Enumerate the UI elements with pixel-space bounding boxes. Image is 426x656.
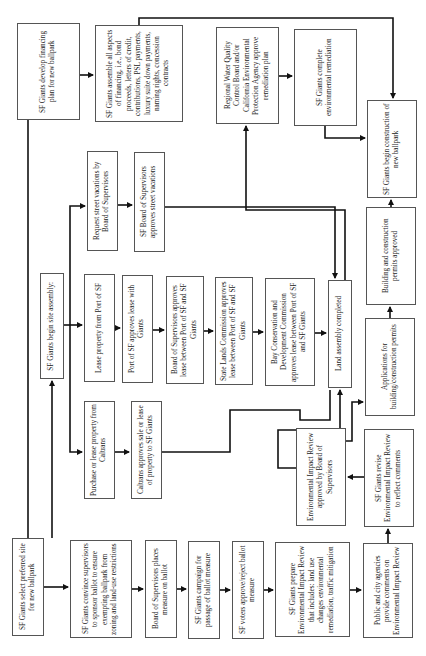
- node-street-request: Request street vacations by Board of Sup…: [87, 151, 118, 251]
- node-label: SF Board of Supervisors approves street …: [138, 153, 161, 251]
- node-eir-prepare: SF Giants prepare Environmental Impact R…: [275, 542, 350, 637]
- node-label: Caltrans approves sale or lease of prope…: [135, 402, 158, 498]
- node-label: SF Giants develop financing plan for new…: [37, 24, 60, 119]
- node-financing-plan: SF Giants develop financing plan for new…: [17, 23, 80, 120]
- node-ballot-place: Board of Supervisors places measure on b…: [145, 540, 177, 638]
- node-label: SF Giants prepare Environmental Impact R…: [287, 543, 338, 636]
- node-caltrans-purchase: Purchase or lease property from Caltrans: [84, 401, 115, 499]
- node-bos-lease: Board of Supervisors approves lease betw…: [166, 276, 204, 384]
- node-label: SF Giants complete environmental remedia…: [314, 30, 337, 125]
- node-permits-apply: Applications for building/construction p…: [365, 318, 415, 416]
- node-land-complete: Land assembly completed: [328, 280, 352, 388]
- node-financing-assemble: SF Giants assemble all aspects of financ…: [95, 25, 183, 122]
- node-label: Applications for building/construction p…: [379, 319, 402, 415]
- node-label: SF Giants convince supervisors to sponso…: [80, 541, 122, 637]
- node-remediation: SF Giants complete environmental remedia…: [294, 29, 357, 126]
- node-label: State Lands Commission approves lease be…: [218, 278, 250, 384]
- node-label: Building and construction permits approv…: [380, 208, 403, 304]
- node-caltrans-approve: Caltrans approves sale or lease of prope…: [131, 401, 162, 499]
- node-label: Purchase or lease property from Caltrans: [88, 402, 111, 498]
- node-lease-port: Lease property from Port of SF: [84, 274, 115, 382]
- node-campaign: SF Giants campaign for passage of ballot…: [188, 541, 220, 639]
- node-label: Port of SF approves lease with Giants: [126, 276, 149, 382]
- node-eir-revise: SF Giants revise Environmental Impact Re…: [364, 429, 414, 527]
- node-bcdc: Bay Conservation and Development Commiss…: [265, 278, 315, 386]
- node-label: Bay Conservation and Development Commiss…: [269, 279, 311, 385]
- node-label: Lease property from Port of SF: [93, 281, 106, 375]
- node-water-board: Regional Water Quality Control Board and…: [216, 27, 279, 124]
- node-label: Environmental Impact Review approved by …: [305, 429, 337, 525]
- node-label: Board of Supervisors places measure on b…: [150, 541, 173, 637]
- node-state-lands: State Lands Commission approves lease be…: [215, 277, 253, 385]
- node-label: Request street vacations by Board of Sup…: [91, 152, 114, 250]
- node-street-approve: SF Board of Supervisors approves street …: [134, 152, 165, 252]
- ballpark-process-flowchart: SF Giants select preferred site for new …: [0, 0, 426, 656]
- node-begin-assembly: SF Giants begin site assembly:: [40, 273, 64, 379]
- node-convince-supervisors: SF Giants convince supervisors to sponso…: [70, 540, 132, 638]
- node-label: SF voters approve/reject ballot measure: [237, 542, 260, 638]
- node-begin-construction: SF Giants begin construction of new ball…: [367, 100, 417, 198]
- node-label: Board of Supervisors approves lease betw…: [169, 277, 201, 383]
- node-label: SF Giants revise Environmental Impact Re…: [373, 430, 405, 526]
- node-label: SF Giants campaign for passage of ballot…: [193, 542, 216, 638]
- node-eir-approved: Environmental Impact Review approved by …: [296, 428, 346, 526]
- node-port-approves: Port of SF approves lease with Giants: [122, 275, 153, 383]
- node-label: SF Giants select preferred site for new …: [17, 539, 40, 635]
- node-voters: SF voters approve/reject ballot measure: [232, 541, 264, 639]
- node-label: SF Giants assemble all aspects of financ…: [104, 26, 174, 121]
- node-label: Land assembly completed: [333, 294, 346, 373]
- node-label: Regional Water Quality Control Board and…: [222, 28, 273, 123]
- node-public-comments: Public and city agencies provide comment…: [363, 543, 413, 638]
- node-select-site: SF Giants select preferred site for new …: [12, 538, 44, 636]
- node-label: SF Giants begin site assembly:: [45, 280, 58, 373]
- node-label: Public and city agencies provide comment…: [372, 544, 404, 637]
- node-label: SF Giants begin construction of new ball…: [381, 101, 404, 197]
- node-permits-approved: Building and construction permits approv…: [366, 207, 416, 305]
